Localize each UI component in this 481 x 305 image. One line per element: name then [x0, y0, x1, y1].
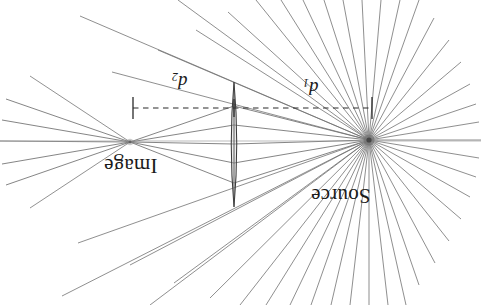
image-distance-subscript: 2 [172, 70, 178, 84]
image-distance-symbol: d [178, 72, 188, 93]
diagram-canvas [0, 0, 481, 305]
source-point [360, 131, 378, 149]
bypass-rays [62, 0, 369, 305]
incident-rays [234, 106, 369, 183]
source-ray-fan [78, 0, 481, 305]
image-label: Image [104, 155, 157, 176]
image-point [127, 139, 133, 145]
optics-ray-diagram: Source Image d1 d2 [0, 0, 481, 305]
object-distance-symbol: d [309, 78, 319, 99]
source-label: Source [311, 185, 371, 206]
object-distance-label: d1 [303, 79, 319, 98]
object-distance-subscript: 1 [303, 76, 309, 90]
image-distance-label: d2 [172, 73, 188, 92]
